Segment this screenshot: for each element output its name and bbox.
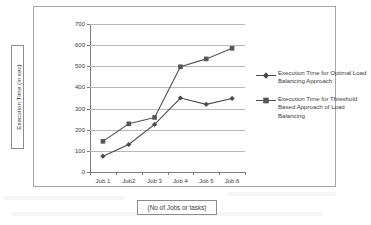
scan-artifact-left (4, 196, 124, 200)
x-axis-tick (116, 172, 117, 175)
data-point-square (152, 115, 157, 120)
y-axis-title-label: Execution Time (in sec) (14, 64, 21, 129)
x-axis-tick (193, 172, 194, 175)
x-axis-tick (90, 172, 91, 175)
data-point-diamond (204, 102, 209, 107)
series-line-1 (103, 98, 232, 156)
x-axis-tick-label: Job 1 (96, 178, 111, 184)
data-point-diamond (229, 96, 234, 101)
y-axis-tick-label: 100 (75, 148, 85, 154)
scan-artifact-right (228, 192, 336, 196)
x-axis-title: (No of Jobs or tasks) (137, 200, 217, 215)
y-axis-tick-label: 0 (82, 169, 85, 175)
series-plot (90, 24, 245, 172)
y-axis-tick-label: 500 (75, 63, 85, 69)
y-axis-tick-label: 600 (75, 42, 85, 48)
chart-legend: Execution Time for Optimal Load Balancin… (256, 69, 371, 129)
y-axis-title: Execution Time (in sec) (11, 45, 24, 149)
legend-label-optimal: Execution Time for Optimal Load Balancin… (278, 69, 371, 86)
x-axis-tick (142, 172, 143, 175)
x-axis-tick-label: Job 5 (199, 178, 214, 184)
chart-frame: 0100200300400500600700 Job 1Job2Job 3Job… (33, 6, 336, 187)
data-point-square (101, 139, 106, 144)
data-point-square (178, 64, 183, 69)
legend-key-square-icon (256, 97, 276, 104)
x-axis-tick (245, 172, 246, 175)
data-point-square (204, 57, 209, 62)
y-axis-tick-label: 400 (75, 84, 85, 90)
data-point-diamond (100, 154, 105, 159)
x-axis-tick-label: Job 4 (173, 178, 188, 184)
x-axis-tick (168, 172, 169, 175)
legend-entry-optimal: Execution Time for Optimal Load Balancin… (256, 69, 371, 86)
legend-entry-threshold: Execution Time for Threshold Based Appro… (256, 95, 371, 120)
x-axis-tick-label: Job2 (122, 178, 135, 184)
x-axis-tick-label: Job 3 (147, 178, 162, 184)
data-point-square (230, 46, 235, 51)
y-axis-tick-label: 700 (75, 21, 85, 27)
legend-key-diamond-icon (256, 72, 276, 79)
x-axis-tick-label: Job 6 (225, 178, 240, 184)
x-axis-title-label: (No of Jobs or tasks) (148, 204, 207, 211)
legend-label-threshold: Execution Time for Threshold Based Appro… (278, 95, 371, 120)
x-axis-tick (219, 172, 220, 175)
plot-area: 0100200300400500600700 Job 1Job2Job 3Job… (90, 24, 245, 172)
y-axis-tick-label: 200 (75, 127, 85, 133)
y-axis-tick-label: 300 (75, 106, 85, 112)
data-point-square (126, 121, 131, 126)
series-line-2 (103, 48, 232, 141)
